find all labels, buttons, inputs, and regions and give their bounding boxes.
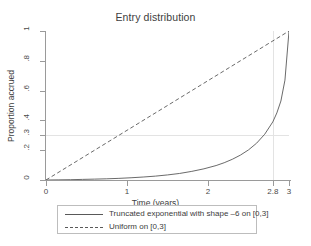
x-tick-label: 0 [33,187,59,196]
x-tick-label: 2 [195,187,221,196]
y-axis-title: Proportion accrued [4,31,18,181]
x-axis-line [46,180,291,181]
legend-item-label: Uniform on [0,3] [109,222,166,231]
chart-legend: Truncated exponential with shape –6 on [… [57,205,257,234]
legend-item-uniform[interactable]: Uniform on [0,3] [58,220,258,233]
y-tick-label: .8 [22,46,31,70]
legend-item-label: Truncated exponential with shape –6 on [… [109,209,268,218]
plot-canvas [46,31,289,180]
y-tick-label: .4 [22,106,31,130]
legend-key-dashed-line-icon [65,222,103,232]
x-tick-label: 3 [276,187,302,196]
y-tick-mark [40,61,45,62]
y-tick-label: 1 [22,17,31,41]
y-tick-mark [40,150,45,151]
x-tick-mark [208,181,209,186]
series-line-uniform [46,31,289,180]
x-tick-label: 1 [114,187,140,196]
y-tick-mark [40,135,45,136]
legend-key-solid-line-icon [65,209,103,219]
x-tick-mark [127,181,128,186]
x-tick-mark [46,181,47,186]
y-tick-label: .6 [22,76,31,100]
legend-item-truncated-exponential[interactable]: Truncated exponential with shape –6 on [… [58,207,258,220]
chart-figure: Entry distribution 0.2.3.4.6.81 0122.83 … [0,0,311,246]
y-tick-label: 0 [22,166,31,190]
chart-title: Entry distribution [0,11,311,23]
y-tick-mark [40,91,45,92]
y-tick-mark [40,120,45,121]
y-tick-mark [40,180,45,181]
x-tick-mark [289,181,290,186]
y-tick-mark [40,31,45,32]
x-tick-mark [273,181,274,186]
